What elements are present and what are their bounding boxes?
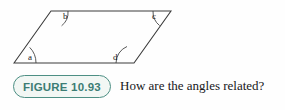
angle-label-a: a <box>28 53 32 62</box>
caption-row: FIGURE 10.93 How are the angles related? <box>0 70 285 110</box>
figure-number-badge: FIGURE 10.93 <box>13 75 111 98</box>
parallelogram-outline <box>14 11 171 63</box>
angle-label-b: b <box>63 12 68 21</box>
figure-container: a b c d FIGURE 10.93 How are the angles … <box>0 0 285 110</box>
angle-label-d: d <box>113 53 118 62</box>
figure-number-label: FIGURE 10.93 <box>23 81 101 93</box>
figure-caption: How are the angles related? <box>120 78 264 94</box>
angle-label-c: c <box>152 12 156 21</box>
